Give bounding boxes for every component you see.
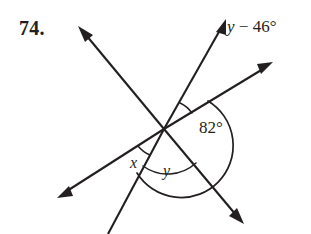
- angle-label-expression-variable: y: [227, 17, 235, 36]
- arc-x-angle: [138, 146, 150, 155]
- angle-label-expression-rest: − 46°: [235, 17, 277, 36]
- ray-upper-left: [86, 35, 164, 129]
- ray-bottom: [108, 129, 164, 234]
- angle-label-82: 82°: [199, 119, 223, 136]
- angle-label-x: x: [130, 155, 137, 171]
- ray-lower-left: [67, 129, 164, 191]
- angle-label-expression: y − 46°: [227, 18, 276, 35]
- arc-expression-angle: [180, 103, 192, 113]
- angle-label-y: y: [163, 163, 170, 179]
- problem-number: 74.: [19, 18, 45, 38]
- geometry-figure: 74. y − 46° 82° x y: [0, 0, 311, 234]
- ray-upper-right-steep: [164, 30, 220, 129]
